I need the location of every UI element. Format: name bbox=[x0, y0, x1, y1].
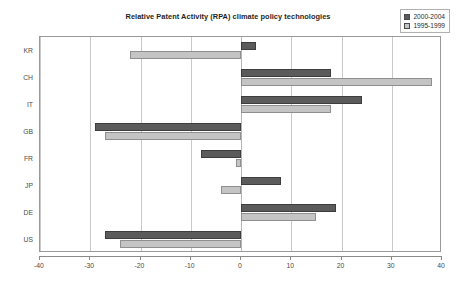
x-axis-label--10: -10 bbox=[175, 262, 205, 269]
bar-US-1995-1999 bbox=[120, 240, 241, 249]
gridline--30 bbox=[90, 37, 91, 251]
bar-FR-1995-1999 bbox=[236, 159, 241, 168]
gridline-30 bbox=[392, 37, 393, 251]
chart-container: Relative Patent Activity (RPA) climate p… bbox=[0, 0, 456, 285]
x-axis-tick-40 bbox=[441, 256, 442, 260]
y-axis-label-IT: IT bbox=[0, 100, 33, 107]
legend-label-0: 2000-2004 bbox=[413, 12, 445, 21]
legend-item-1: 1995-1999 bbox=[404, 21, 445, 30]
x-axis-tick--40 bbox=[39, 256, 40, 260]
gridline--10 bbox=[191, 37, 192, 251]
gridline--40 bbox=[40, 37, 41, 251]
bar-DE-2000-2004 bbox=[241, 204, 336, 213]
y-axis-label-FR: FR bbox=[0, 154, 33, 161]
bar-IT-1995-1999 bbox=[241, 105, 331, 114]
bar-KR-2000-2004 bbox=[241, 42, 256, 51]
bar-CH-1995-1999 bbox=[241, 78, 432, 87]
x-axis-tick--20 bbox=[140, 256, 141, 260]
legend-item-0: 2000-2004 bbox=[404, 12, 445, 21]
chart-title: Relative Patent Activity (RPA) climate p… bbox=[0, 12, 456, 21]
x-axis-label--30: -30 bbox=[74, 262, 104, 269]
y-axis-label-CH: CH bbox=[0, 73, 33, 80]
x-axis-tick-10 bbox=[290, 256, 291, 260]
legend-label-1: 1995-1999 bbox=[413, 21, 445, 30]
x-axis-tick-30 bbox=[391, 256, 392, 260]
legend-swatch-icon-0 bbox=[404, 14, 410, 20]
bar-GB-1995-1999 bbox=[105, 132, 241, 141]
y-axis-label-JP: JP bbox=[0, 181, 33, 188]
x-axis-tick--30 bbox=[89, 256, 90, 260]
bar-KR-1995-1999 bbox=[130, 51, 241, 60]
gridline-20 bbox=[342, 37, 343, 251]
y-axis-label-DE: DE bbox=[0, 208, 33, 215]
bar-JP-1995-1999 bbox=[221, 186, 241, 195]
y-axis-label-GB: GB bbox=[0, 127, 33, 134]
x-axis-label-10: 10 bbox=[275, 262, 305, 269]
bar-DE-1995-1999 bbox=[241, 213, 316, 222]
x-axis-label-40: 40 bbox=[426, 262, 456, 269]
x-axis-label-20: 20 bbox=[326, 262, 356, 269]
legend-swatch-icon-1 bbox=[404, 23, 410, 29]
gridline--20 bbox=[141, 37, 142, 251]
bar-GB-2000-2004 bbox=[95, 123, 241, 132]
x-axis-tick--10 bbox=[190, 256, 191, 260]
y-axis-label-US: US bbox=[0, 235, 33, 242]
bar-US-2000-2004 bbox=[105, 231, 241, 240]
bar-FR-2000-2004 bbox=[201, 150, 241, 159]
bar-JP-2000-2004 bbox=[241, 177, 281, 186]
x-axis-label--40: -40 bbox=[24, 262, 54, 269]
x-axis-tick-20 bbox=[341, 256, 342, 260]
x-axis-label-0: 0 bbox=[225, 262, 255, 269]
bar-CH-2000-2004 bbox=[241, 69, 331, 78]
bar-IT-2000-2004 bbox=[241, 96, 362, 105]
plot-area bbox=[39, 36, 441, 252]
y-axis-label-KR: KR bbox=[0, 46, 33, 53]
chart-legend: 2000-2004 1995-1999 bbox=[400, 9, 450, 33]
x-axis-tick-0 bbox=[240, 256, 241, 260]
x-axis-label-30: 30 bbox=[376, 262, 406, 269]
x-axis-label--20: -20 bbox=[125, 262, 155, 269]
